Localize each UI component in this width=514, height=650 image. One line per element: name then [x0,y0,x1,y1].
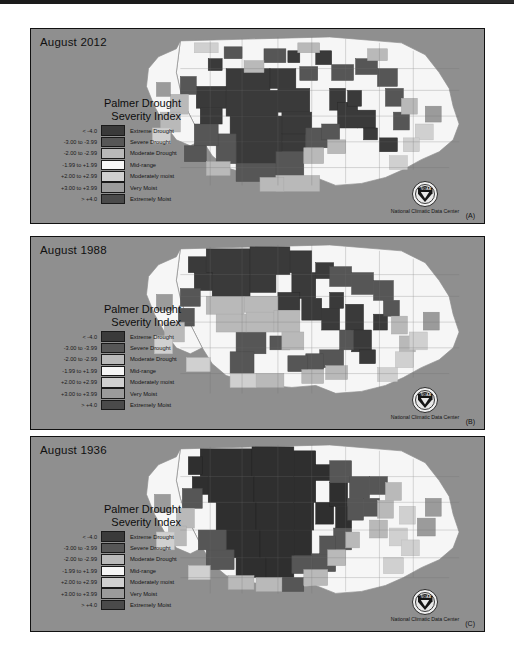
legend-swatch-mid-range [101,566,125,577]
legend-title: Palmer Drought Severity Index [39,303,181,329]
legend-swatch-extremely-moist [101,194,125,205]
legend-label: Moderately moist [125,379,174,385]
legend-row: -3.00 to -3.99 Severe Drought [39,136,219,147]
legend-range: -3.00 to -3.99 [39,345,101,351]
legend-label: Moderate Drought [125,356,177,362]
panel-letter-label: (C) [465,620,475,627]
legend-range: -2.00 to -2.99 [39,356,101,362]
legend-label: Mid-range [125,162,156,168]
legend-title-line-2: Severity Index [39,110,181,123]
legend-row: +2.00 to +2.99 Moderately moist [39,377,219,388]
legend-label: Extremely Moist [125,602,171,608]
legend-range: +3.00 to +3.99 [39,591,101,597]
legend-swatch-severe-drought [101,543,125,554]
noaa-caption: National Climatic Data Center [377,616,473,622]
legend-label: Moderate Drought [125,556,177,562]
legend-label: Extremely Moist [125,196,171,202]
panel-letter-label: (B) [466,418,475,425]
legend-row: -1.99 to +1.99 Mid-range [39,159,219,170]
legend-range: < -4.0 [39,334,101,340]
legend-range: < -4.0 [39,128,101,134]
legend-label: Extreme Drought [125,334,174,340]
noaa-attribution: NOAA National Climatic Data Center [377,387,473,420]
legend-range: -1.99 to +1.99 [39,568,101,574]
legend-row: > +4.0 Extremely Moist [39,399,219,410]
legend-range: +2.00 to +2.99 [39,379,101,385]
map-panel-august-1988[interactable]: August 1988 Palmer Drought Severity Inde… [30,236,485,430]
legend-title-line-1: Palmer Drought [39,303,181,316]
noaa-attribution: NOAA National Climatic Data Center [377,181,473,214]
legend-range: -2.00 to -2.99 [39,150,101,156]
legend-swatch-moderately-moist [101,377,125,388]
noaa-seal-icon: NOAA [412,589,438,615]
legend-label: Very Moist [125,591,157,597]
legend-range: > +4.0 [39,402,101,408]
legend-swatch-extreme-drought [101,331,125,342]
legend-swatch-extremely-moist [101,400,125,411]
legend-range: < -4.0 [39,534,101,540]
legend-range: > +4.0 [39,602,101,608]
legend-range: -1.99 to +1.99 [39,162,101,168]
legend-range: -3.00 to -3.99 [39,545,101,551]
legend-label: Severe Drought [125,545,171,551]
legend-row: < -4.0 Extreme Drought [39,531,219,542]
legend-label: Mid-range [125,368,156,374]
legend-label: Moderately moist [125,579,174,585]
legend-row: -3.00 to -3.99 Severe Drought [39,542,219,553]
legend-swatch-very-moist [101,182,125,193]
legend-range: -3.00 to -3.99 [39,139,101,145]
legend-row: -2.00 to -2.99 Moderate Drought [39,554,219,565]
legend-title-line-2: Severity Index [39,316,181,329]
drought-index-figure: August 2012 Palmer Drought Severity Inde… [0,0,514,650]
legend-range: +2.00 to +2.99 [39,579,101,585]
legend-swatch-moderate-drought [101,554,125,565]
legend-title-line-1: Palmer Drought [39,97,181,110]
legend-label: Severe Drought [125,139,171,145]
noaa-seal-icon: NOAA [412,181,438,207]
legend-row: +3.00 to +3.99 Very Moist [39,388,219,399]
noaa-seal-text: NOAA [413,595,438,599]
legend-row: -2.00 to -2.99 Moderate Drought [39,148,219,159]
legend-swatch-severe-drought [101,137,125,148]
legend-swatch-moderately-moist [101,577,125,588]
legend-label: Very Moist [125,185,157,191]
legend-swatch-mid-range [101,160,125,171]
legend-row: +3.00 to +3.99 Very Moist [39,588,219,599]
legend-row: +3.00 to +3.99 Very Moist [39,182,219,193]
map-panel-august-1936[interactable]: August 1936 Palmer Drought Severity Inde… [30,436,485,632]
legend-swatch-very-moist [101,588,125,599]
legend-row: +2.00 to +2.99 Moderately moist [39,577,219,588]
legend-swatch-severe-drought [101,343,125,354]
legend-row: < -4.0 Extreme Drought [39,125,219,136]
map-panel-august-2012[interactable]: August 2012 Palmer Drought Severity Inde… [30,28,485,224]
panel-date-label: August 2012 [40,36,107,48]
legend-row: > +4.0 Extremely Moist [39,599,219,610]
legend-range: +3.00 to +3.99 [39,185,101,191]
legend-swatch-moderate-drought [101,148,125,159]
noaa-seal-text: NOAA [413,393,438,397]
legend-label: Extremely Moist [125,402,171,408]
legend-row: -2.00 to -2.99 Moderate Drought [39,354,219,365]
legend-range: -1.99 to +1.99 [39,368,101,374]
noaa-caption: National Climatic Data Center [377,414,473,420]
legend-label: Mid-range [125,568,156,574]
legend-label: Moderate Drought [125,150,177,156]
noaa-attribution: NOAA National Climatic Data Center [377,589,473,622]
legend-row: +2.00 to +2.99 Moderately moist [39,171,219,182]
legend-range: +3.00 to +3.99 [39,391,101,397]
legend-row: -3.00 to -3.99 Severe Drought [39,342,219,353]
legend-1936: Palmer Drought Severity Index < -4.0 Ext… [39,503,219,611]
panel-letter-label: (A) [466,212,475,219]
legend-swatch-extreme-drought [101,125,125,136]
legend-row: -1.99 to +1.99 Mid-range [39,565,219,576]
legend-range: +2.00 to +2.99 [39,173,101,179]
legend-range: > +4.0 [39,196,101,202]
legend-row: -1.99 to +1.99 Mid-range [39,365,219,376]
legend-row: < -4.0 Extreme Drought [39,331,219,342]
noaa-seal-icon: NOAA [412,387,438,413]
legend-swatch-extreme-drought [101,531,125,542]
legend-1988: Palmer Drought Severity Index < -4.0 Ext… [39,303,219,411]
legend-label: Extreme Drought [125,128,174,134]
panel-date-label: August 1936 [40,444,107,456]
legend-2012: Palmer Drought Severity Index < -4.0 Ext… [39,97,219,205]
